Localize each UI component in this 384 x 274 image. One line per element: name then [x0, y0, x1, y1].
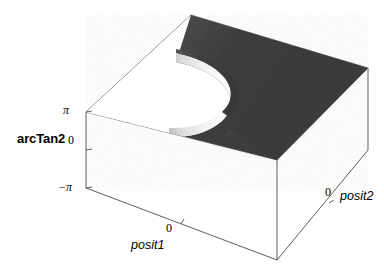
y-axis-line — [277, 150, 368, 260]
x-axis-label: posit1 — [131, 239, 164, 252]
surface-plot-figure: arcTan2 π 0 −π 0 posit1 0 posit2 — [0, 0, 384, 274]
y-axis-tick-label-zero: 0 — [325, 186, 331, 198]
z-tick-mark-negpi — [86, 187, 92, 188]
z-axis-tick-label-zero: 0 — [68, 134, 74, 146]
x-tick-mark-zero — [181, 219, 184, 224]
y-tick-mark-zero — [329, 200, 334, 203]
z-axis-tick-label-negative-pi: −π — [58, 181, 72, 193]
z-axis-tick-label-pi: π — [63, 104, 69, 116]
z-axis-label: arcTan2 — [17, 132, 65, 145]
y-axis-label: posit2 — [340, 190, 373, 203]
x-axis-tick-label-zero: 0 — [166, 222, 172, 234]
